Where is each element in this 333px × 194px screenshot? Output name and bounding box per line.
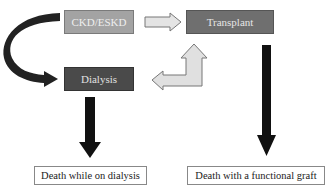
arrow-ckd-to-transplant-icon [145, 13, 181, 31]
arrow-dialysis-to-death-icon [79, 97, 101, 158]
node-transplant: Transplant [186, 10, 274, 34]
arrows-layer [0, 0, 333, 194]
node-death-on-dialysis: Death while on dialysis [34, 166, 147, 185]
arrow-dialysis-transplant-bidirectional-icon [152, 44, 207, 90]
node-death-graft-label: Death with a functional graft [195, 170, 316, 181]
arrow-transplant-to-death-icon [257, 45, 276, 156]
node-transplant-label: Transplant [207, 16, 254, 28]
node-dialysis: Dialysis [64, 67, 134, 91]
node-ckd-eskd: CKD/ESKD [64, 10, 134, 34]
arrow-ckd-to-dialysis-icon [3, 13, 60, 87]
node-dialysis-label: Dialysis [81, 73, 117, 85]
node-death-dialysis-label: Death while on dialysis [41, 170, 140, 181]
node-death-functional-graft: Death with a functional graft [187, 166, 325, 185]
node-ckd-label: CKD/ESKD [71, 16, 126, 28]
